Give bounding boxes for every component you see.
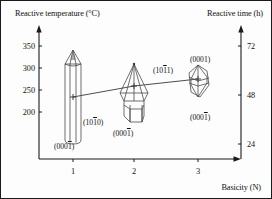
trend-line bbox=[73, 79, 198, 97]
crystal-habit-3 bbox=[189, 65, 209, 97]
crystal-habit-2 bbox=[120, 63, 148, 122]
right-axis bbox=[238, 25, 243, 159]
x-axis bbox=[39, 156, 241, 161]
figure-container: Reactive temperature (°C) Reactive time … bbox=[0, 0, 272, 199]
data-point-markers bbox=[70, 76, 201, 100]
plot-area bbox=[1, 1, 272, 199]
left-axis bbox=[36, 25, 41, 159]
